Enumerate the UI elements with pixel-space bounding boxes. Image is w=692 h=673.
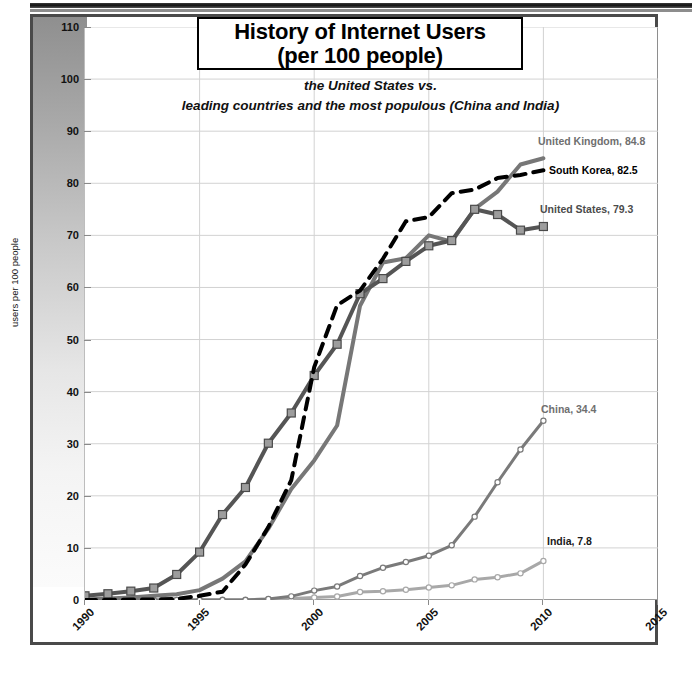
data-point-marker [449,543,454,548]
y-axis-tick-label: 70 [33,229,84,241]
data-point-marker [426,553,431,558]
data-point-marker [472,577,477,582]
data-point-marker [472,514,477,519]
data-point-marker [403,587,408,592]
data-point-marker [335,584,340,589]
y-axis-tick-mark [84,496,91,497]
data-point-marker [403,559,408,564]
y-axis-tick-mark [84,235,91,236]
x-axis-tick-label: 1995 [171,606,211,646]
x-axis-tick-mark [657,600,658,605]
y-axis-tick-mark [84,340,91,341]
y-axis-tick-label: 10 [33,542,84,554]
page-title-line2: (per 100 people) [277,44,443,68]
data-point-marker [518,571,523,576]
y-axis-tick-mark [84,131,91,132]
data-point-marker [541,418,546,423]
y-axis: users per 100 people 1101009080706050403… [33,27,84,600]
data-point-marker [539,223,547,231]
y-axis-tick-mark [84,183,91,184]
series-label-south-korea: South Korea, 82.5 [549,164,638,176]
data-point-marker [173,570,181,578]
y-axis-tick-label: 0 [33,594,84,606]
data-point-marker [333,340,341,348]
data-point-marker [425,242,433,250]
top-rule-dark [30,3,692,8]
y-axis-tick-mark [84,444,91,445]
y-axis-tick-label: 80 [33,177,84,189]
series-label-united-kingdom: United Kingdom, 84.8 [538,135,645,147]
y-axis-tick-label: 30 [33,438,84,450]
data-point-marker [380,565,385,570]
series-label-china: China, 34.4 [541,403,596,415]
data-point-marker [335,594,340,599]
data-point-marker [518,447,523,452]
y-axis-tick-mark [84,287,91,288]
subtitle-line-1: the United States vs. [84,76,657,96]
data-point-marker [287,409,295,417]
data-point-marker [449,583,454,588]
y-axis-tick-label: 60 [33,281,84,293]
y-axis-tick-label: 90 [33,125,84,137]
y-axis-title: users per 100 people [9,238,20,327]
data-point-marker [219,511,227,519]
series-label-india: India, 7.8 [547,535,592,547]
x-axis-tick-label: 2010 [515,606,555,646]
y-axis-tick-mark [84,27,91,28]
x-axis-tick-label: 2005 [401,606,441,646]
series-label-united-states: United States, 79.3 [540,203,633,215]
chart-subtitle: the United States vs. leading countries … [84,76,657,117]
data-point-marker [495,480,500,485]
top-rule-light [30,9,692,12]
subtitle-line-2: leading countries and the most populous … [84,96,657,116]
data-point-marker [471,205,479,213]
y-axis-tick-mark [84,548,91,549]
y-axis-tick-label: 100 [33,73,84,85]
data-point-marker [448,237,456,245]
x-axis-tick-mark [313,600,314,605]
x-axis: 199019952000200520102015 [84,600,669,660]
chart-page: users per 100 people 1101009080706050403… [0,0,692,673]
y-axis-tick-label: 50 [33,334,84,346]
data-point-marker [426,585,431,590]
data-point-marker [516,226,524,234]
data-point-marker [494,211,502,219]
data-point-marker [104,590,112,598]
data-point-marker [541,558,546,563]
data-point-marker [379,275,387,283]
title-box: History of Internet Users (per 100 peopl… [197,17,523,70]
y-axis-tick-label: 20 [33,490,84,502]
x-axis-tick-mark [84,600,85,605]
x-axis-tick-label: 2015 [630,606,670,646]
page-title: History of Internet Users [234,20,486,44]
data-point-marker [264,439,272,447]
data-point-marker [357,573,362,578]
data-point-marker [495,575,500,580]
data-point-marker [357,589,362,594]
y-axis-tick-label: 110 [33,21,84,33]
y-axis-tick-label: 40 [33,386,84,398]
data-point-marker [127,587,135,595]
data-point-marker [312,588,317,593]
x-axis-tick-mark [428,600,429,605]
data-point-marker [402,257,410,265]
data-point-marker [380,589,385,594]
x-axis-tick-label: 2000 [286,606,326,646]
x-axis-tick-mark [199,600,200,605]
x-axis-tick-mark [542,600,543,605]
data-point-marker [289,594,294,599]
y-axis-tick-mark [84,392,91,393]
data-point-marker [150,584,158,592]
data-point-marker [196,548,204,556]
data-point-marker [241,483,249,491]
